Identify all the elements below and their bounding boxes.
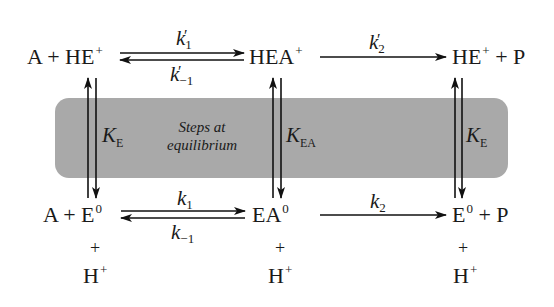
rate-subscript: 2: [378, 41, 385, 56]
rate-k-minus1: k−1: [171, 222, 194, 245]
rate-symbol: k: [177, 186, 186, 210]
k-symbol: K: [102, 123, 116, 147]
species-ea: EA0: [252, 204, 289, 229]
rate-subscript: −1: [179, 73, 193, 88]
species-text: A + E: [43, 202, 95, 227]
plus-left: +: [90, 239, 100, 257]
species-a-plus-e: A + E0: [43, 204, 102, 229]
species-text: H: [453, 263, 469, 288]
species-text: E: [452, 202, 465, 227]
rate-k-minus1-prime: k′−1: [170, 64, 193, 87]
charge-superscript: 0: [282, 201, 289, 216]
charge-superscript: +: [295, 43, 302, 58]
rate-k1: k1: [177, 188, 193, 211]
species-suffix: + P: [490, 44, 526, 69]
rate-symbol: k: [171, 220, 180, 244]
rate-k2: k2: [370, 191, 386, 214]
rate-subscript: 1: [185, 37, 192, 52]
species-text: HEA: [249, 44, 294, 69]
k-symbol: K: [466, 123, 480, 147]
species-a-plus-he: A + HE+: [27, 46, 103, 71]
species-suffix: + P: [473, 202, 509, 227]
proton-left: H+: [83, 265, 107, 290]
rate-symbol: k: [370, 189, 379, 213]
charge-superscript: 0: [96, 201, 103, 216]
charge-superscript: 0: [466, 201, 473, 216]
species-hea: HEA+: [249, 46, 303, 71]
charge-superscript: +: [470, 262, 477, 277]
species-text: EA: [252, 202, 281, 227]
equilibrium-constant-ke-left: KE: [102, 125, 123, 149]
species-he-plus-p: HE+ + P: [452, 46, 525, 71]
charge-superscript: +: [482, 43, 489, 58]
charge-superscript: +: [285, 262, 292, 277]
rate-subscript: −1: [180, 231, 194, 246]
reaction-scheme: Steps at equilibrium A + HE: [0, 0, 554, 307]
rate-k1-prime: k′1: [176, 28, 192, 51]
rate-subscript: 2: [379, 200, 386, 215]
proton-right: H+: [453, 265, 477, 290]
k-symbol: K: [286, 123, 300, 147]
species-e-plus-p: E0 + P: [452, 204, 509, 229]
species-text: A + HE: [27, 44, 94, 69]
species-text: H: [83, 263, 99, 288]
proton-middle: H+: [268, 265, 292, 290]
plus-right: +: [458, 239, 468, 257]
charge-superscript: +: [100, 262, 107, 277]
equilibrium-constant-kea: KEA: [286, 125, 316, 149]
k-subscript: E: [116, 136, 123, 150]
species-text: H: [268, 263, 284, 288]
rate-k2-prime: k′2: [369, 32, 385, 55]
rate-subscript: 1: [186, 197, 193, 212]
charge-superscript: +: [95, 43, 102, 58]
species-text: HE: [452, 44, 481, 69]
plus-middle: +: [275, 239, 285, 257]
equilibrium-constant-ke-right: KE: [466, 125, 487, 149]
k-subscript: EA: [300, 136, 316, 150]
k-subscript: E: [480, 136, 487, 150]
